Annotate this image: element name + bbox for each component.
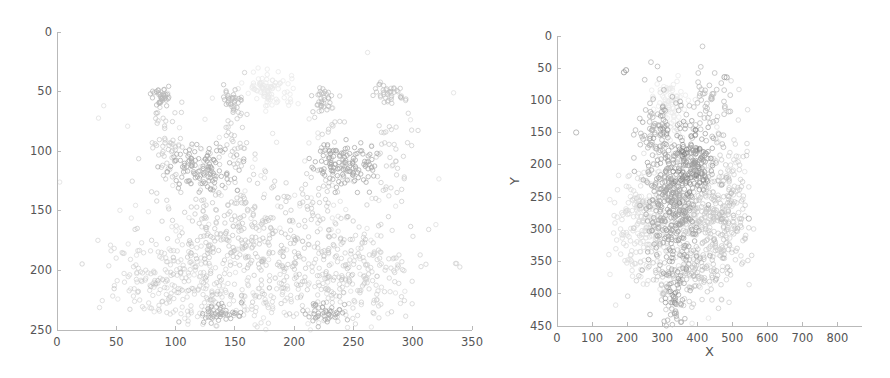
scatter-point	[310, 148, 314, 152]
scatter-point	[226, 119, 230, 123]
scatter-point	[148, 249, 152, 253]
scatter-point	[270, 157, 274, 161]
scatter-point	[223, 320, 227, 324]
scatter-point	[353, 322, 357, 326]
scatter-point	[224, 267, 228, 271]
scatter-point	[252, 194, 256, 198]
scatter-point	[102, 104, 106, 108]
scatter-point	[286, 154, 290, 158]
scatter-point	[125, 261, 129, 265]
scatter-point	[719, 158, 724, 163]
scatter-point	[152, 264, 156, 268]
scatter-point	[187, 224, 191, 228]
scatter-point	[724, 160, 728, 164]
right-scatter-panel: 0100200300400500600700800X05010015020025…	[490, 0, 890, 378]
scatter-point	[195, 303, 199, 307]
scatter-point	[258, 214, 262, 218]
scatter-point	[384, 242, 388, 246]
scatter-point	[283, 211, 287, 215]
scatter-point	[107, 264, 111, 268]
scatter-point	[233, 270, 237, 274]
y-tick-label: 450	[530, 319, 552, 333]
scatter-point	[325, 242, 329, 246]
scatter-point	[165, 237, 169, 241]
scatter-point	[698, 127, 703, 132]
scatter-point	[384, 265, 388, 269]
scatter-point	[643, 108, 648, 113]
scatter-point	[159, 227, 163, 231]
scatter-point	[395, 198, 399, 202]
scatter-point	[103, 279, 107, 283]
scatter-point	[224, 317, 228, 321]
scatter-point	[245, 112, 249, 116]
scatter-point	[743, 161, 747, 165]
scatter-point	[700, 297, 705, 302]
scatter-point	[220, 205, 224, 209]
scatter-point	[740, 207, 745, 212]
scatter-point	[178, 106, 182, 110]
scatter-point	[651, 107, 656, 112]
scatter-point	[408, 118, 412, 122]
scatter-point	[287, 304, 291, 308]
scatter-point	[266, 321, 270, 325]
scatter-point	[189, 205, 193, 209]
scatter-point	[697, 295, 701, 299]
scatter-point	[692, 239, 697, 244]
scatter-point	[176, 255, 180, 259]
scatter-point	[274, 287, 278, 291]
scatter-point	[396, 181, 400, 185]
scatter-point	[415, 289, 419, 293]
scatter-point	[262, 183, 266, 187]
scatter-point	[330, 300, 334, 304]
scatter-point	[713, 201, 718, 206]
scatter-point	[165, 131, 169, 135]
scatter-point	[336, 229, 340, 233]
cluster-light-top-cluster	[235, 56, 301, 113]
scatter-point	[348, 233, 352, 237]
scatter-point	[307, 292, 311, 296]
scatter-point	[187, 273, 191, 277]
scatter-point	[309, 93, 313, 97]
scatter-point	[321, 281, 325, 285]
scatter-point	[185, 295, 189, 299]
scatter-point	[288, 228, 292, 232]
scatter-point	[284, 199, 288, 203]
scatter-point	[353, 233, 357, 237]
scatter-point	[655, 64, 660, 69]
scatter-point	[307, 141, 311, 145]
y-tick-label: 50	[537, 61, 552, 75]
scatter-point	[638, 131, 643, 136]
y-axis: 050100150200250300350400450Y	[507, 29, 561, 333]
scatter-point	[147, 310, 151, 314]
scatter-point	[698, 141, 702, 145]
scatter-point	[359, 141, 363, 145]
scatter-point	[707, 83, 712, 88]
scatter-point	[729, 78, 734, 83]
scatter-point	[239, 137, 243, 141]
scatter-point	[710, 258, 715, 263]
x-tick-label: 600	[756, 331, 778, 345]
scatter-point	[175, 239, 179, 243]
scatter-point	[389, 186, 393, 190]
scatter-point	[611, 231, 616, 236]
scatter-point	[759, 187, 763, 191]
x-tick-label: 300	[402, 335, 424, 349]
scatter-point	[345, 325, 349, 329]
scatter-point	[362, 314, 366, 318]
scatter-point	[695, 140, 699, 144]
scatter-point	[203, 117, 207, 121]
scatter-point	[158, 105, 162, 109]
scatter-point	[637, 116, 642, 121]
scatter-point	[270, 103, 274, 107]
scatter-point	[122, 271, 126, 275]
scatter-point	[630, 208, 635, 213]
scatter-point	[325, 189, 329, 193]
scatter-point	[321, 184, 325, 188]
scatter-point	[715, 225, 719, 229]
scatter-point	[305, 189, 309, 193]
scatter-point	[170, 225, 174, 229]
scatter-point	[144, 237, 148, 241]
axes	[57, 32, 472, 330]
scatter-point	[356, 175, 360, 179]
scatter-point	[309, 217, 313, 221]
